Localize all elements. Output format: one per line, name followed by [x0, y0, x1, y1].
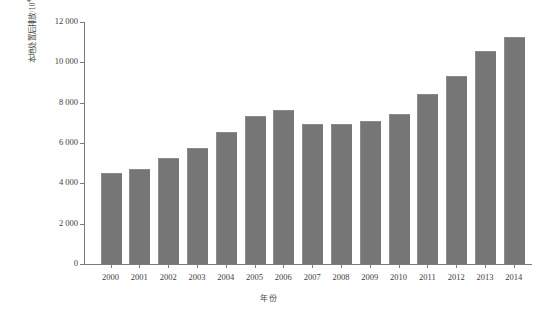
x-axis-tick-label: 2014 [494, 272, 534, 283]
bar [245, 116, 266, 264]
y-axis-tick-mark [80, 224, 84, 225]
y-axis-tick-mark [80, 22, 84, 23]
y-axis-tick-mark [80, 62, 84, 63]
x-axis-tick-mark [255, 264, 256, 268]
bar [187, 148, 208, 264]
x-axis-tick-mark [139, 264, 140, 268]
bar [504, 37, 525, 264]
bar [360, 121, 381, 264]
x-axis-line [84, 264, 532, 265]
bar [129, 169, 150, 264]
bar [273, 110, 294, 264]
y-axis-tick-label: 6 000 [59, 137, 78, 148]
y-axis-tick-mark [80, 143, 84, 144]
x-axis-tick-mark [485, 264, 486, 268]
bar [417, 94, 438, 264]
bar [389, 114, 410, 264]
bar [475, 51, 496, 264]
y-axis-tick-label: 12 000 [55, 16, 78, 27]
y-axis-tick-label: 2 000 [59, 218, 78, 229]
x-axis-tick-mark [283, 264, 284, 268]
bar [446, 76, 467, 264]
y-axis-title: 本地处置后排放/104 t [22, 0, 36, 94]
x-axis-tick-mark [168, 264, 169, 268]
bar [216, 132, 237, 264]
x-axis-tick-mark [514, 264, 515, 268]
bar [158, 158, 179, 264]
y-axis-tick-label: 4 000 [59, 177, 78, 188]
bar-chart-figure: 本地处置后排放/104 t 02 0004 0006 0008 00010 00… [0, 0, 537, 322]
x-axis-tick-mark [370, 264, 371, 268]
x-axis-tick-mark [312, 264, 313, 268]
y-axis-tick-mark [80, 183, 84, 184]
bar [302, 124, 323, 264]
x-axis-tick-mark [197, 264, 198, 268]
x-axis-tick-mark [456, 264, 457, 268]
y-axis-line [84, 22, 85, 264]
x-axis-title: 年份 [0, 292, 537, 303]
x-axis-tick-mark [427, 264, 428, 268]
x-axis-tick-mark [111, 264, 112, 268]
bar [101, 173, 122, 264]
y-axis-tick-label: 8 000 [59, 97, 78, 108]
x-axis-tick-mark [399, 264, 400, 268]
y-axis-tick-label: 10 000 [55, 56, 78, 67]
plot-area: 02 0004 0006 0008 00010 00012 000 200020… [84, 22, 532, 264]
y-axis-unit-exponent: 4 [26, 0, 32, 2]
y-axis-tick-mark [80, 264, 84, 265]
y-axis-title-text: 本地处置后排放/10 [28, 2, 37, 63]
bar [331, 124, 352, 264]
y-axis-tick-mark [80, 103, 84, 104]
x-axis-tick-mark [226, 264, 227, 268]
x-axis-tick-mark [341, 264, 342, 268]
y-axis-tick-label: 0 [74, 258, 78, 269]
